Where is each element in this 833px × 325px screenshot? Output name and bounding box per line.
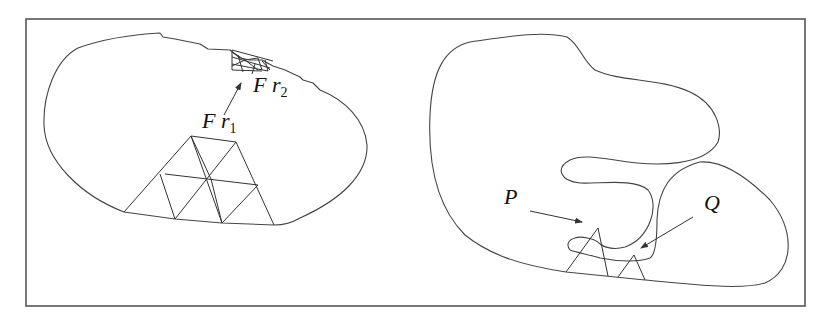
truss-mesh-fr1 [124, 136, 274, 225]
label-fr2: F r2 [252, 72, 288, 100]
mesh-p [566, 228, 608, 276]
truss-mesh-fr2 [232, 50, 273, 74]
figure-frame [26, 19, 805, 306]
diagram-canvas: F r1 F r2 P Q [0, 0, 833, 325]
mesh-q [618, 255, 645, 280]
right-panel: P Q [430, 34, 788, 286]
label-p: P [503, 184, 517, 209]
right-region-outline [430, 34, 788, 286]
label-fr1: F r1 [201, 108, 237, 136]
arrow-p [530, 211, 582, 222]
left-panel: F r1 F r2 [44, 33, 367, 225]
label-q: Q [704, 190, 720, 215]
arrow-q [641, 217, 693, 248]
